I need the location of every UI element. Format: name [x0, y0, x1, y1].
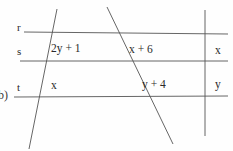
parallel-line-r [24, 32, 228, 34]
figure-lines-svg [0, 0, 233, 151]
edge-label-x: x [215, 45, 221, 57]
segment-label-y-plus-4: y + 4 [142, 79, 166, 91]
segment-label-x-plus-6: x + 6 [129, 44, 153, 56]
segment-label-2y-plus-1: 2y + 1 [51, 43, 81, 55]
line-label-t: t [17, 82, 20, 93]
part-marker: b) [0, 89, 8, 101]
transversals-group [29, 7, 205, 149]
geometry-figure: b) r s t 2y + 1 x + 6 x y + 4 x y [0, 0, 233, 151]
segment-label-x: x [51, 80, 57, 92]
edge-label-y: y [215, 79, 221, 91]
parallel-line-t [14, 96, 228, 97]
line-label-s: s [17, 46, 21, 57]
line-label-r: r [17, 22, 21, 33]
transversal-middle [107, 7, 173, 144]
